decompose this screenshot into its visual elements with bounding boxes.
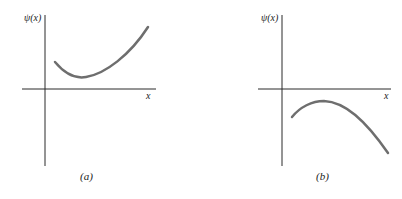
panel-a-x-axis-label: x — [146, 90, 150, 101]
panel-b-y-axis-label: ψ(x) — [261, 12, 278, 23]
panel-b — [258, 15, 391, 166]
wavefunction-figure — [0, 0, 402, 199]
panel-a-curve — [55, 27, 148, 77]
panel-b-curve — [292, 101, 388, 153]
panel-a-caption: (a) — [80, 170, 93, 182]
panel-a-y-axis-label: ψ(x) — [24, 12, 41, 23]
panel-b-x-axis-label: x — [384, 90, 388, 101]
panel-a — [22, 15, 156, 166]
panel-b-caption: (b) — [316, 170, 329, 182]
